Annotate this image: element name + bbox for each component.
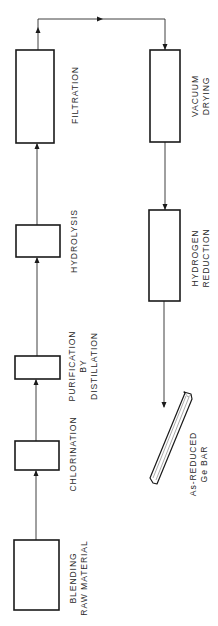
label-vacuum-drying: VACUUM DRYING <box>190 75 211 117</box>
arrowhead-icon <box>163 44 168 50</box>
arrowhead-icon <box>34 379 39 385</box>
label-purification-line-1: PURIFICATION <box>67 331 77 402</box>
connector-filtration-vacuum-drying <box>38 19 165 50</box>
label-chlorination-line-1: CHLORINATION <box>68 416 78 491</box>
label-purification-line-2: BY <box>78 359 88 372</box>
arrowhead-icon <box>35 257 40 263</box>
label-ge-bar: As-REDUCED Ge BAR <box>188 432 209 496</box>
label-blending-line-2: RAW MATERIAL <box>79 540 89 615</box>
arrowhead-icon <box>162 402 167 408</box>
arrowhead-icon <box>35 143 40 149</box>
label-chlorination: CHLORINATION <box>68 416 78 491</box>
arrowhead-icon <box>97 17 103 22</box>
label-ge-bar-line-2: Ge BAR <box>199 446 209 483</box>
label-purification: PURIFICATION BY DISTILLATION <box>67 331 99 402</box>
box-hydrogen-reduction <box>149 210 180 301</box>
label-vacuum-drying-line-2: DRYING <box>201 77 211 116</box>
box-hydrolysis <box>16 225 60 257</box>
ge-bar-icon <box>150 392 192 484</box>
label-hydrogen-reduction-line-2: REDUCTION <box>201 228 211 287</box>
label-blending-line-1: BLENDING <box>68 552 78 603</box>
label-hydrolysis: HYDROLYSIS <box>69 209 79 273</box>
arrowhead-icon <box>163 204 168 210</box>
label-hydrogen-reduction: HYDROGEN REDUCTION <box>190 228 211 287</box>
label-filtration: FILTRATION <box>70 66 80 124</box>
arrowhead-icon <box>34 470 39 476</box>
box-blending <box>14 540 59 610</box>
label-hydrogen-reduction-line-1: HYDROGEN <box>190 230 200 287</box>
box-vacuum-drying <box>150 50 180 142</box>
process-flow-diagram: FILTRATION HYDROLYSIS PURIFICATION BY DI… <box>0 0 218 626</box>
label-purification-line-3: DISTILLATION <box>89 332 99 400</box>
box-chlorination <box>15 441 59 470</box>
label-filtration-line-1: FILTRATION <box>70 66 80 124</box>
arrowhead-icon <box>36 27 41 33</box>
box-purification <box>15 356 60 379</box>
label-vacuum-drying-line-1: VACUUM <box>190 75 200 117</box>
label-hydrolysis-line-1: HYDROLYSIS <box>69 209 79 273</box>
label-ge-bar-line-1: As-REDUCED <box>188 432 198 496</box>
label-blending: BLENDING RAW MATERIAL <box>68 540 89 615</box>
box-filtration <box>16 50 54 143</box>
